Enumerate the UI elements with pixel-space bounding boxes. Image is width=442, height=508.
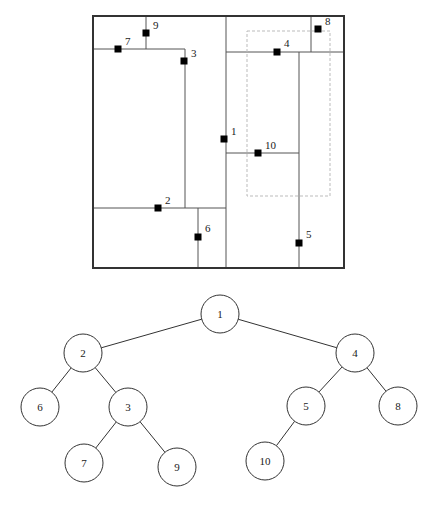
- tree-edge-n4-n5: [319, 367, 342, 392]
- data-point-4[interactable]: [274, 49, 281, 56]
- tree-edge-n2-n6: [52, 368, 71, 392]
- kd-tree-figure: 12345678910 12463587910: [0, 0, 442, 508]
- tree-node-label-9: 9: [174, 461, 180, 473]
- data-point-3[interactable]: [181, 58, 188, 65]
- data-point-label-10: 10: [265, 139, 277, 151]
- data-point-9[interactable]: [143, 30, 150, 37]
- data-point-label-9: 9: [153, 19, 159, 31]
- data-point-label-2: 2: [165, 194, 171, 206]
- tree-node-label-8: 8: [395, 400, 401, 412]
- data-point-8[interactable]: [315, 26, 322, 33]
- tree-node-label-3: 3: [125, 401, 131, 413]
- data-point-2[interactable]: [155, 205, 162, 212]
- tree-edge-n4-n8: [367, 368, 386, 391]
- tree-node-label-4: 4: [352, 347, 358, 359]
- data-point-label-3: 3: [191, 47, 197, 59]
- data-point-label-8: 8: [325, 15, 331, 27]
- data-point-5[interactable]: [296, 240, 303, 247]
- data-point-label-5: 5: [306, 228, 312, 240]
- data-point-label-6: 6: [205, 222, 211, 234]
- tree-node-label-7: 7: [81, 457, 87, 469]
- data-point-1[interactable]: [221, 136, 228, 143]
- tree-edge-n5-n10: [276, 421, 294, 446]
- data-point-label-4: 4: [284, 37, 290, 49]
- tree-edge-n2-n3: [95, 368, 116, 393]
- tree-panel: 12463587910: [21, 295, 417, 486]
- partition-panel: 12345678910: [93, 15, 344, 268]
- tree-node-label-10: 10: [260, 455, 272, 467]
- tree-edge-n1-n4: [238, 319, 336, 347]
- tree-node-label-1: 1: [217, 308, 223, 320]
- data-point-6[interactable]: [195, 234, 202, 241]
- tree-edge-n1-n2: [101, 319, 201, 348]
- query-rectangle: [247, 31, 330, 196]
- data-point-10[interactable]: [255, 150, 262, 157]
- tree-node-label-5: 5: [303, 400, 309, 412]
- data-point-label-1: 1: [231, 125, 237, 137]
- tree-node-label-6: 6: [37, 401, 43, 413]
- tree-edge-n3-n9: [140, 422, 165, 453]
- tree-node-label-2: 2: [80, 347, 86, 359]
- data-point-7[interactable]: [115, 46, 122, 53]
- data-point-label-7: 7: [125, 35, 131, 47]
- tree-edge-n3-n7: [96, 422, 117, 448]
